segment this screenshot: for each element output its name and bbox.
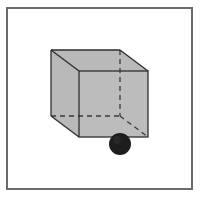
ball-highlight [113,136,121,144]
cube-front-face [79,71,148,137]
cube-diagram [0,0,205,199]
ball [109,133,131,155]
